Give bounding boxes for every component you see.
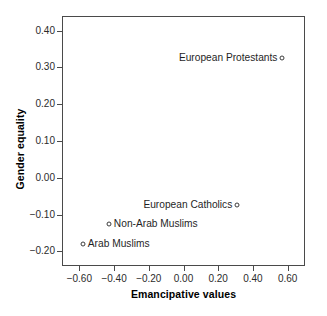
x-tick-mark	[288, 266, 289, 271]
x-tick-label: 0.00	[174, 274, 193, 284]
y-tick-mark	[57, 251, 62, 252]
y-tick-label: −0.10	[30, 210, 55, 220]
x-tick-mark	[184, 266, 185, 271]
y-tick-label: 0.30	[36, 62, 55, 72]
x-tick-label: −0.20	[136, 274, 161, 284]
x-tick-mark	[253, 266, 254, 271]
x-tick-label: 0.20	[208, 274, 227, 284]
data-point-marker	[235, 203, 240, 208]
y-tick-label: 0.40	[36, 26, 55, 36]
y-tick-label: 0.00	[36, 173, 55, 183]
y-tick-mark	[57, 104, 62, 105]
x-tick-mark	[114, 266, 115, 271]
x-tick-mark	[149, 266, 150, 271]
x-tick-mark	[79, 266, 80, 271]
y-tick-mark	[57, 141, 62, 142]
y-tick-label: 0.10	[36, 136, 55, 146]
data-point-label: European Protestants	[179, 53, 278, 63]
data-point-label: Non-Arab Muslims	[114, 219, 198, 229]
data-point-label: Arab Muslims	[88, 239, 150, 249]
y-tick-mark	[57, 67, 62, 68]
x-axis-label: Emancipative values	[62, 288, 305, 300]
scatter-plot-figure: Gender equality Emancipative values 0.40…	[0, 0, 327, 316]
x-tick-label: 0.60	[278, 274, 297, 284]
x-tick-label: −0.40	[101, 274, 126, 284]
y-axis-label: Gender equality	[12, 24, 28, 274]
data-point-label: European Catholics	[143, 200, 232, 210]
y-tick-label: 0.20	[36, 99, 55, 109]
y-tick-mark	[57, 31, 62, 32]
data-point-marker	[106, 221, 111, 226]
data-point-marker	[280, 56, 285, 61]
data-point-marker	[80, 241, 85, 246]
y-tick-label: −0.20	[30, 246, 55, 256]
x-tick-label: −0.60	[67, 274, 92, 284]
x-tick-mark	[218, 266, 219, 271]
y-tick-mark	[57, 178, 62, 179]
y-tick-mark	[57, 215, 62, 216]
x-tick-label: 0.40	[243, 274, 262, 284]
